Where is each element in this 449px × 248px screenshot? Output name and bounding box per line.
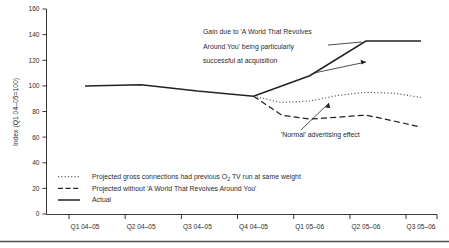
plot-area bbox=[85, 41, 421, 127]
y-tick-label-120: 120 bbox=[28, 57, 39, 64]
x-axis: Q1 04–05 Q2 04–05 Q3 04–05 Q4 04–05 Q1 0… bbox=[47, 215, 438, 232]
gain-annotation-line1: Gain due to 'A World That Revolves bbox=[203, 28, 312, 35]
normal-advertising-leader bbox=[301, 103, 329, 130]
y-tick-label-100: 100 bbox=[28, 82, 39, 89]
x-tick-label-q4-04-05: Q4 04–05 bbox=[239, 223, 268, 231]
normal-advertising-annotation: 'Normal' advertising effect bbox=[281, 103, 360, 139]
x-tick-label-q3-04-05: Q3 04–05 bbox=[183, 223, 212, 231]
y-tick-label-160: 160 bbox=[28, 5, 39, 12]
x-tick-label-q1-05-06: Q1 05–06 bbox=[295, 223, 324, 231]
y-axis: 160 140 120 100 80 60 40 20 0 Index (Q1 … bbox=[12, 5, 47, 217]
legend-label-projected-with-o2-tv: Projected gross connections had previous… bbox=[92, 173, 301, 182]
gain-annotation-arrowhead bbox=[361, 60, 367, 65]
gain-annotation-line2: Around You' being particularly bbox=[203, 43, 295, 51]
normal-advertising-annotation-label: 'Normal' advertising effect bbox=[281, 131, 360, 139]
gain-annotation-line3: successful at acquisition bbox=[203, 57, 277, 65]
y-tick-label-20: 20 bbox=[32, 185, 40, 192]
x-tick-label-q1-04-05: Q1 04–05 bbox=[71, 223, 100, 231]
y-tick-label-60: 60 bbox=[32, 134, 40, 141]
line-chart-svg: 160 140 120 100 80 60 40 20 0 Index (Q1 … bbox=[0, 0, 449, 248]
series-projected-without-awtray-line bbox=[254, 96, 422, 127]
y-tick-label-80: 80 bbox=[32, 108, 40, 115]
gain-annotation: Gain due to 'A World That Revolves Aroun… bbox=[203, 28, 366, 73]
legend-label-pre: Projected gross connections had previous… bbox=[92, 173, 228, 181]
x-tick-label-q3-05-06: Q3 05–06 bbox=[407, 223, 436, 231]
chart-figure: 160 140 120 100 80 60 40 20 0 Index (Q1 … bbox=[0, 0, 449, 248]
legend-label-projected-without-awtray: Projected without 'A World That Revolves… bbox=[92, 185, 256, 193]
gain-annotation-leader-upper bbox=[328, 42, 362, 45]
y-tick-label-40: 40 bbox=[32, 159, 40, 166]
chart-legend: Projected gross connections had previous… bbox=[58, 173, 301, 203]
y-axis-title: Index (Q1 04–05=100) bbox=[12, 78, 20, 146]
y-tick-label-140: 140 bbox=[28, 31, 39, 38]
legend-label-post: TV run at same weight bbox=[230, 173, 301, 181]
legend-label-actual: Actual bbox=[92, 196, 112, 203]
series-projected-with-o2-tv-line bbox=[254, 92, 422, 102]
y-tick-label-0: 0 bbox=[36, 210, 40, 217]
x-tick-label-q2-05-06: Q2 05–06 bbox=[351, 223, 380, 231]
x-tick-label-q2-04-05: Q2 04–05 bbox=[127, 223, 156, 231]
